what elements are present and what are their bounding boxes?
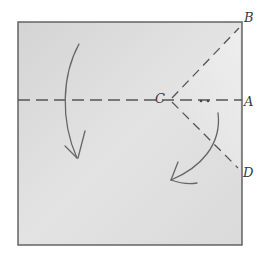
- fold-marker-dot: [200, 100, 203, 103]
- label-d: D: [242, 165, 254, 180]
- label-b: B: [243, 10, 254, 25]
- label-c: C: [155, 91, 165, 106]
- fold-diagram: B C A D: [0, 0, 273, 257]
- fold-marker-dot: [207, 100, 210, 103]
- label-a: A: [243, 94, 253, 109]
